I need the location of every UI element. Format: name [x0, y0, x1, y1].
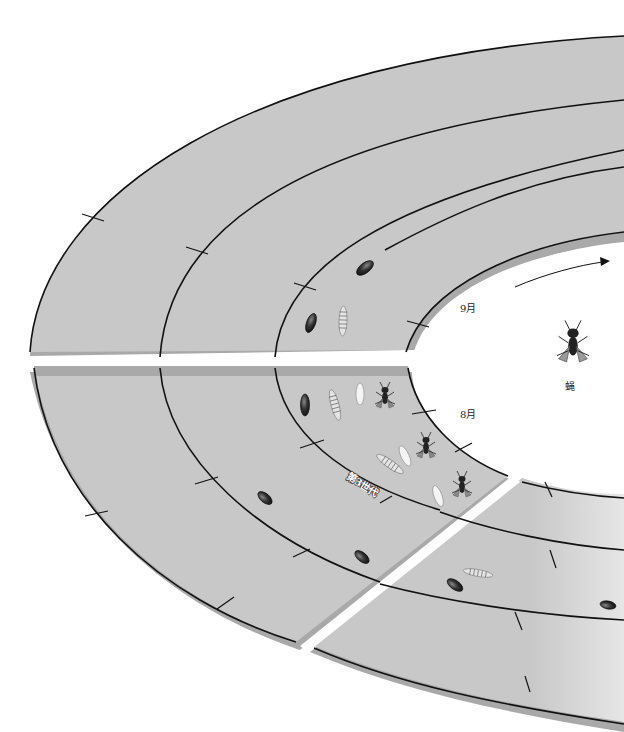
month-label-september: 9月 [460, 300, 476, 315]
horizontal-gap [28, 357, 418, 365]
month-label-august: 8月 [460, 406, 476, 421]
pupa-icon [301, 394, 310, 416]
adult-stage-label: 蝇 [565, 378, 575, 393]
life-cycle-spiral-diagram [0, 0, 624, 732]
egg-icon [356, 383, 364, 405]
